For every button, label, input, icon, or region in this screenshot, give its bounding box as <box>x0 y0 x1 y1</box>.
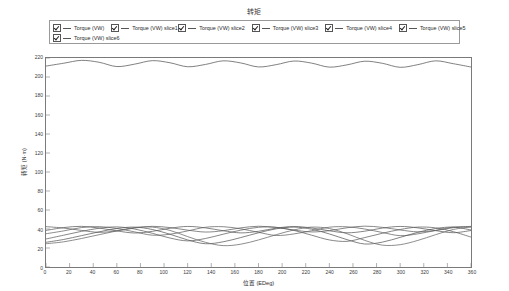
line-sample-icon <box>121 28 129 29</box>
checkbox-icon[interactable] <box>111 24 119 32</box>
x-axis-tick-labels: 0204060801001201401601802002202402602803… <box>45 270 472 278</box>
x-tick-label: 200 <box>278 270 286 275</box>
line-sample-icon <box>63 38 71 39</box>
legend-label: Torque (VW) <box>74 25 104 32</box>
legend-item-slice6[interactable]: Torque (VW) slice6 <box>53 34 120 42</box>
y-axis-tick-labels: 020406080100120140160180200220 <box>28 57 43 268</box>
x-tick-label: 140 <box>207 270 215 275</box>
legend-item-slice5[interactable]: Torque (VW) slice5 <box>399 24 466 32</box>
y-tick-label: 220 <box>35 55 43 60</box>
y-tick-label: 100 <box>35 170 43 175</box>
x-tick-label: 60 <box>113 270 119 275</box>
legend-label: Torque (VW) slice4 <box>346 25 392 32</box>
x-tick-label: 240 <box>325 270 333 275</box>
y-tick-label: 200 <box>35 74 43 79</box>
series-line <box>46 60 471 67</box>
x-tick-label: 20 <box>66 270 72 275</box>
legend-row-1: Torque (VW) Torque (VW) slice1 Torque (V… <box>53 23 456 33</box>
line-sample-icon <box>335 28 343 29</box>
x-tick-label: 160 <box>231 270 239 275</box>
legend-item-slice4[interactable]: Torque (VW) slice4 <box>325 24 392 32</box>
x-tick-label: 300 <box>397 270 405 275</box>
x-tick-label: 360 <box>468 270 476 275</box>
x-tick-label: 320 <box>420 270 428 275</box>
checkbox-icon[interactable] <box>178 24 186 32</box>
legend-label: Torque (VW) slice5 <box>420 25 466 32</box>
checkbox-icon[interactable] <box>399 24 407 32</box>
y-tick-label: 80 <box>37 189 43 194</box>
chart-page: 转矩 Torque (VW) Torque (VW) slice1 Torque… <box>0 0 509 291</box>
series-line <box>46 227 471 244</box>
y-tick-label: 0 <box>40 266 43 271</box>
x-tick-label: 40 <box>90 270 96 275</box>
legend-item-slice1[interactable]: Torque (VW) slice1 <box>111 24 171 32</box>
chart-legend[interactable]: Torque (VW) Torque (VW) slice1 Torque (V… <box>49 20 460 44</box>
legend-label: Torque (VW) slice2 <box>199 25 245 32</box>
plot-area <box>45 57 472 268</box>
line-sample-icon <box>188 28 196 29</box>
y-tick-label: 140 <box>35 131 43 136</box>
y-tick-label: 40 <box>37 227 43 232</box>
x-tick-label: 180 <box>254 270 262 275</box>
y-tick-label: 120 <box>35 150 43 155</box>
checkbox-icon[interactable] <box>252 24 260 32</box>
y-axis-label: 转矩 (N·m) <box>20 148 28 176</box>
checkbox-icon[interactable] <box>325 24 333 32</box>
legend-item-slice2[interactable]: Torque (VW) slice2 <box>178 24 245 32</box>
chart-title: 转矩 <box>0 6 509 16</box>
checkbox-icon[interactable] <box>53 34 61 42</box>
y-tick-label: 60 <box>37 208 43 213</box>
checkbox-icon[interactable] <box>53 24 61 32</box>
legend-label: Torque (VW) slice6 <box>74 35 120 42</box>
line-sample-icon <box>63 28 71 29</box>
x-axis-label: 位置 (EDeg) <box>45 279 472 287</box>
line-sample-icon <box>262 28 270 29</box>
x-tick-label: 340 <box>444 270 452 275</box>
series-line <box>46 227 471 242</box>
x-tick-label: 0 <box>44 270 47 275</box>
y-tick-label: 20 <box>37 246 43 251</box>
x-tick-label: 260 <box>349 270 357 275</box>
legend-item-torque-vw[interactable]: Torque (VW) <box>53 24 104 32</box>
x-tick-label: 120 <box>183 270 191 275</box>
legend-item-slice3[interactable]: Torque (VW) slice3 <box>252 24 319 32</box>
y-tick-label: 160 <box>35 112 43 117</box>
line-sample-icon <box>409 28 417 29</box>
x-tick-label: 100 <box>159 270 167 275</box>
legend-label: Torque (VW) slice1 <box>132 25 178 32</box>
legend-row-2: Torque (VW) slice6 <box>53 33 456 43</box>
x-tick-label: 80 <box>137 270 143 275</box>
x-tick-label: 280 <box>373 270 381 275</box>
x-tick-label: 220 <box>302 270 310 275</box>
legend-label: Torque (VW) slice3 <box>273 25 319 32</box>
y-tick-label: 180 <box>35 93 43 98</box>
plot-svg <box>46 58 471 267</box>
